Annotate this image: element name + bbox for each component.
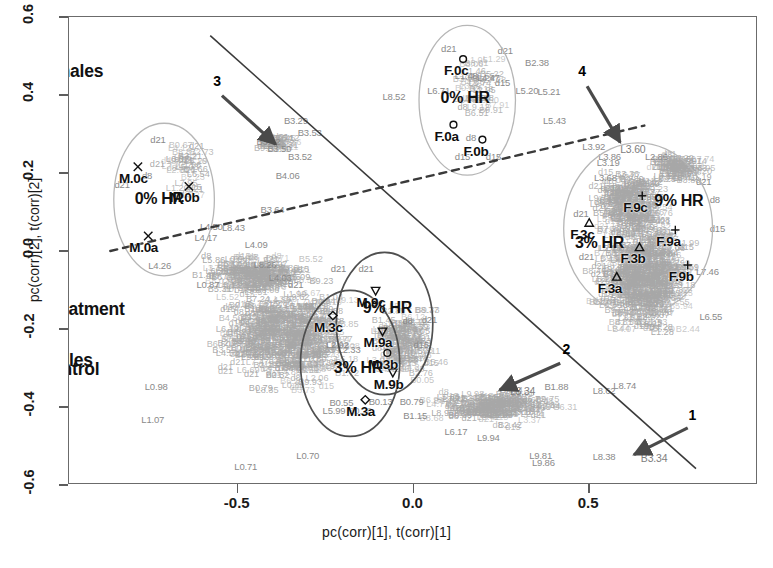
sample-id-label: M.0c: [119, 171, 148, 186]
arrow-number-3: 3: [213, 73, 221, 89]
y-tick-label-text: 0.6: [20, 4, 36, 24]
sample-id-label: M.3a: [346, 404, 375, 419]
cluster-label-female-treatment: 3% HR: [575, 234, 624, 252]
y-tick-label: 0.6: [0, 6, 56, 22]
figure-root: 0.60.40.20.0-0.2-0.4-0.6 pc(corr)[2], t(…: [0, 0, 773, 568]
y-tick-label-text: -0.4: [20, 392, 36, 417]
group-title-males: Males: [69, 350, 93, 371]
x-axis-title: pc(corr)[1], t(corr)[1]: [0, 524, 773, 540]
x-tick: [588, 484, 590, 493]
annotation-arrow-2: [500, 363, 561, 390]
cluster-label-male-treatment: 9% HR: [363, 299, 412, 317]
cluster-label-male-treatment: 3% HR: [334, 359, 383, 377]
cluster-label-male-control: 0% HR: [135, 190, 184, 208]
y-tick-label: -0.4: [0, 396, 56, 412]
group-title-females: Females: [69, 61, 103, 82]
y-tick: [59, 172, 68, 174]
sample-id-label: F.9a: [656, 234, 680, 249]
sample-id-label: F.3a: [598, 281, 622, 296]
sample-id-label: F.0a: [434, 129, 458, 144]
sample-id-label: F.9c: [623, 200, 647, 215]
x-tick-label: 0.5: [553, 494, 623, 511]
annotation-arrow-3: [222, 96, 276, 145]
y-tick-label: -0.6: [0, 474, 56, 490]
cluster-label-female-control: 0% HR: [441, 89, 490, 107]
y-tick: [59, 94, 68, 96]
group-title-hr-treatment: HR Treatment: [69, 299, 125, 320]
x-tick: [413, 484, 415, 493]
sample-id-label: F.3b: [620, 251, 645, 266]
y-axis-title: pc(corr)[2], t(corr)[2]: [26, 110, 42, 370]
y-tick: [59, 250, 68, 252]
sample-id-label: M.3c: [314, 320, 343, 335]
sample-id-label: F.0c: [444, 63, 468, 78]
y-tick-label-text: 0.4: [20, 82, 36, 102]
sample-id-label: M.9a: [363, 335, 392, 350]
y-tick: [59, 16, 68, 18]
cluster-label-female-treatment: 9% HR: [654, 192, 703, 210]
annotation-arrow-1: [634, 428, 688, 455]
y-tick: [59, 406, 68, 408]
x-tick-label: 0.0: [378, 494, 448, 511]
arrow-number-4: 4: [578, 63, 586, 79]
sample-id-label: M.9b: [374, 377, 404, 392]
annotation-arrows: [69, 17, 756, 483]
y-tick-label-text: -0.6: [20, 470, 36, 495]
arrow-number-1: 1: [689, 407, 697, 423]
x-tick-label: -0.5: [202, 494, 272, 511]
sample-id-label: F.9b: [669, 269, 694, 284]
y-tick: [59, 328, 68, 330]
y-tick-label: 0.4: [0, 84, 56, 100]
annotation-arrow-4: [587, 86, 620, 142]
x-tick: [237, 484, 239, 493]
y-tick: [59, 484, 68, 486]
plot-area: L6.29B5.65d15B6.50L1.68B2.88L7.47B2.16B4…: [69, 17, 756, 483]
sample-id-label: M.0a: [129, 240, 158, 255]
arrow-number-2: 2: [562, 341, 570, 357]
sample-id-label: F.0b: [463, 144, 488, 159]
plot-frame: L6.29B5.65d15B6.50L1.68B2.88L7.47B2.16B4…: [68, 16, 757, 484]
